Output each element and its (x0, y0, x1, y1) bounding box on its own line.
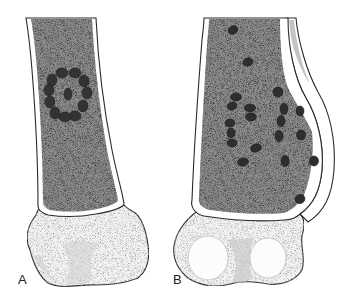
panel-b-condyle-left (188, 236, 228, 280)
panel-a (26, 18, 149, 286)
bone-lesion-figure (0, 0, 340, 297)
panel-b-condyle-right (250, 238, 286, 278)
panel-b-label: B (173, 272, 182, 287)
panel-a-label: A (18, 272, 27, 287)
panel-b (174, 18, 335, 286)
